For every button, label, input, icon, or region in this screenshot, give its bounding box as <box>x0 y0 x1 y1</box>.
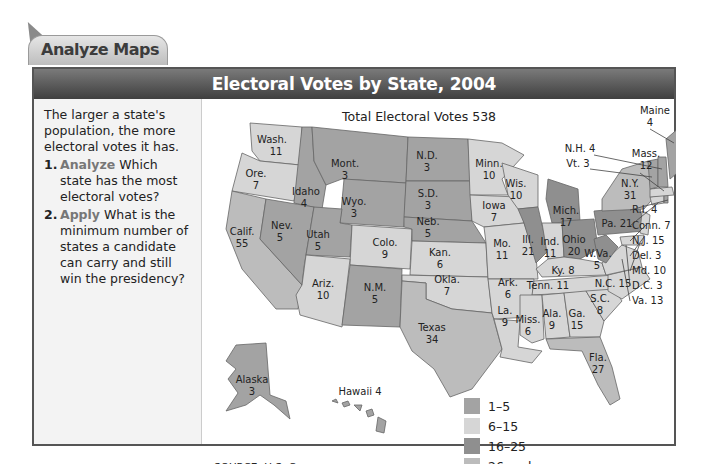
label-ariz: Ariz. <box>312 278 334 289</box>
analyze-maps-tab: Analyze Maps <box>28 35 168 65</box>
label-pa: Pa. 21 <box>602 218 633 229</box>
label-texas: Texas <box>417 322 446 333</box>
label-alaska: Alaska <box>236 374 269 385</box>
value-wyo: 3 <box>351 208 357 219</box>
legend-swatch <box>464 398 480 414</box>
value-idaho: 4 <box>301 198 307 209</box>
value-wis: 10 <box>510 190 523 201</box>
state-maine <box>666 127 676 179</box>
label-conn: Conn. 7 <box>632 220 671 231</box>
value-iowa: 7 <box>491 212 497 223</box>
value-mont: 3 <box>342 170 348 181</box>
value-nev: 5 <box>277 232 283 243</box>
question-body: Apply What is the minimum number of stat… <box>60 207 193 287</box>
label-idaho: Idaho <box>292 186 320 197</box>
map-area: Wash. 11 Ore. 7 Calif. 55 Idaho 4 Nev. 5… <box>202 99 674 444</box>
state-sd <box>404 181 472 221</box>
value-kan: 6 <box>437 259 443 270</box>
question-2: 2. Apply What is the minimum number of s… <box>44 207 193 287</box>
legend-label: 1–5 <box>488 399 510 414</box>
legend-label: 16–25 <box>488 439 526 454</box>
question-number: 1. <box>44 157 60 205</box>
label-del: Del. 3 <box>632 250 661 261</box>
state-ri <box>664 195 668 203</box>
value-utah: 5 <box>315 241 321 252</box>
label-dc: D.C. 3 <box>632 280 663 291</box>
legend-item: 1–5 <box>464 396 563 416</box>
label-sd: S.D. <box>418 188 438 199</box>
value-ore: 7 <box>253 180 259 191</box>
label-ore: Ore. <box>245 168 266 179</box>
value-mo: 11 <box>496 250 509 261</box>
label-va: Va. 13 <box>632 295 663 306</box>
label-mont: Mont. <box>331 158 359 169</box>
label-calif: Calif. <box>230 226 255 237</box>
value-ariz: 10 <box>317 290 330 301</box>
legend-swatch <box>464 418 480 434</box>
label-nm: N.M. <box>364 282 386 293</box>
label-ga: Ga. <box>568 308 585 319</box>
state-mont <box>312 127 408 185</box>
label-tenn: Tenn. 11 <box>526 280 569 291</box>
legend-label: 6–15 <box>488 419 518 434</box>
question-keyword: Apply <box>60 207 100 222</box>
label-fla: Fla. <box>589 352 607 363</box>
value-alaska: 3 <box>249 386 255 397</box>
value-texas: 34 <box>426 334 439 345</box>
panel-title: Electoral Votes by State, 2004 <box>34 69 674 99</box>
label-wash: Wash. <box>257 134 287 145</box>
label-neb: Neb. <box>416 216 439 227</box>
label-ill: Ill. <box>522 234 534 245</box>
value-okla: 7 <box>444 286 450 297</box>
value-nd: 3 <box>424 162 430 173</box>
label-mich: Mich. <box>553 205 579 216</box>
value-colo: 9 <box>382 249 388 260</box>
label-la: La. <box>498 305 513 316</box>
value-ill: 21 <box>522 246 535 257</box>
label-nd: N.D. <box>416 150 438 161</box>
value-sc: 8 <box>597 305 603 316</box>
label-okla: Okla. <box>434 274 460 285</box>
value-neb: 5 <box>425 228 431 239</box>
label-nh: N.H. 4 <box>565 143 596 154</box>
state-nh <box>658 157 668 187</box>
question-1: 1. Analyze Which state has the most elec… <box>44 157 193 205</box>
value-ga: 15 <box>571 320 584 331</box>
label-maine: Maine <box>640 105 670 116</box>
label-ky: Ky. 8 <box>551 265 574 276</box>
question-body: Analyze Which state has the most elector… <box>60 157 193 205</box>
label-ri: R.I. 4 <box>632 204 657 215</box>
label-mo: Mo. <box>493 238 511 249</box>
value-wva: 5 <box>594 260 600 271</box>
value-calif: 55 <box>236 238 249 249</box>
label-kan: Kan. <box>429 247 451 258</box>
map-panel: Electoral Votes by State, 2004 The large… <box>32 67 676 446</box>
value-nm: 5 <box>372 294 378 305</box>
label-ind: Ind. <box>541 236 560 247</box>
intro-text: The larger a state's population, the mor… <box>44 107 193 155</box>
value-ohio: 20 <box>568 246 581 257</box>
legend-item: 16–25 <box>464 436 563 456</box>
value-maine: 4 <box>647 117 653 128</box>
value-wash: 11 <box>270 146 283 157</box>
label-vt: Vt. 3 <box>566 158 589 169</box>
value-ala: 9 <box>549 320 555 331</box>
label-nj: N.J. 15 <box>632 235 665 246</box>
label-nev: Nev. <box>271 220 293 231</box>
legend-item: 26 and over <box>464 456 563 464</box>
value-minn: 10 <box>483 170 496 181</box>
question-keyword: Analyze <box>60 157 115 172</box>
legend-label: 26 and over <box>488 459 563 464</box>
sidebar: The larger a state's population, the mor… <box>34 99 202 444</box>
label-utah: Utah <box>306 229 330 240</box>
label-minn: Minn. <box>475 158 502 169</box>
value-la: 9 <box>502 317 508 328</box>
tab-label: Analyze Maps <box>41 40 159 59</box>
value-sd: 3 <box>425 200 431 211</box>
us-map: Wash. 11 Ore. 7 Calif. 55 Idaho 4 Nev. 5… <box>202 99 676 446</box>
legend: 1–5 6–15 16–25 26 and over <box>464 396 563 464</box>
label-wva: W.Va. <box>584 248 611 259</box>
label-mass: Mass. <box>632 148 660 159</box>
state-fla <box>546 337 620 405</box>
legend-swatch <box>464 438 480 454</box>
